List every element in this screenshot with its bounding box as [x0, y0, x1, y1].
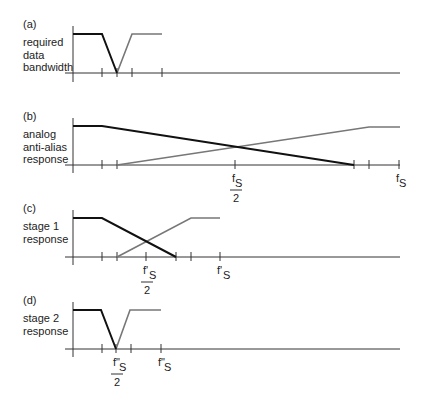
panel-tag: (d) [23, 294, 36, 306]
svg-text:S: S [235, 177, 242, 189]
panel-tag: (b) [23, 110, 36, 122]
svg-text:2: 2 [114, 376, 120, 388]
panel-label-line: stage 2 [23, 312, 59, 324]
passband-response-curve [73, 126, 354, 165]
panel-tag: (c) [23, 202, 36, 214]
panel-label-line: anti-alias [23, 141, 68, 153]
svg-text:2: 2 [144, 284, 150, 296]
image-band-response-curve [117, 127, 400, 165]
decimation-filter-diagram: (a)requireddatabandwidth(b)analoganti-al… [0, 0, 424, 398]
passband-response-curve [73, 218, 176, 257]
panel-tag: (a) [23, 18, 36, 30]
sample-rate-label: fS [396, 172, 406, 189]
svg-text:S: S [119, 361, 126, 373]
sample-rate-label: f'S [217, 264, 230, 281]
sample-rate-label: f"S [158, 356, 171, 373]
panel-label-line: analog [23, 128, 56, 140]
panel-d: (d)stage 2responsef"S2f"S [23, 294, 400, 388]
panel-label-line: bandwidth [23, 61, 73, 73]
half-sample-rate-label: f'S2 [141, 264, 156, 296]
panel-label-line: response [23, 233, 68, 245]
panel-label-line: response [23, 153, 68, 165]
panel-c: (c)stage 1responsef'S2f'S [23, 202, 400, 296]
svg-text:f': f' [217, 264, 222, 276]
image-band-response-curve [117, 218, 220, 257]
half-sample-rate-label: f"S2 [111, 356, 126, 388]
panel-a: (a)requireddatabandwidth [23, 18, 400, 82]
svg-text:S: S [223, 269, 230, 281]
panel-label-line: response [23, 325, 68, 337]
svg-text:f': f' [143, 264, 148, 276]
svg-text:2: 2 [233, 192, 239, 204]
svg-text:S: S [149, 269, 156, 281]
svg-text:S: S [399, 177, 406, 189]
half-sample-rate-label: fS2 [230, 172, 242, 204]
svg-text:S: S [164, 361, 171, 373]
panel-label-line: stage 1 [23, 220, 59, 232]
panel-b: (b)analoganti-aliasresponsefS2fS [23, 110, 406, 204]
passband-response-curve [73, 310, 116, 349]
passband-response-curve [73, 34, 117, 73]
image-band-response-curve [117, 34, 162, 73]
panel-label-line: required [23, 36, 63, 48]
image-band-response-curve [116, 310, 161, 349]
panel-label-line: data [23, 49, 45, 61]
